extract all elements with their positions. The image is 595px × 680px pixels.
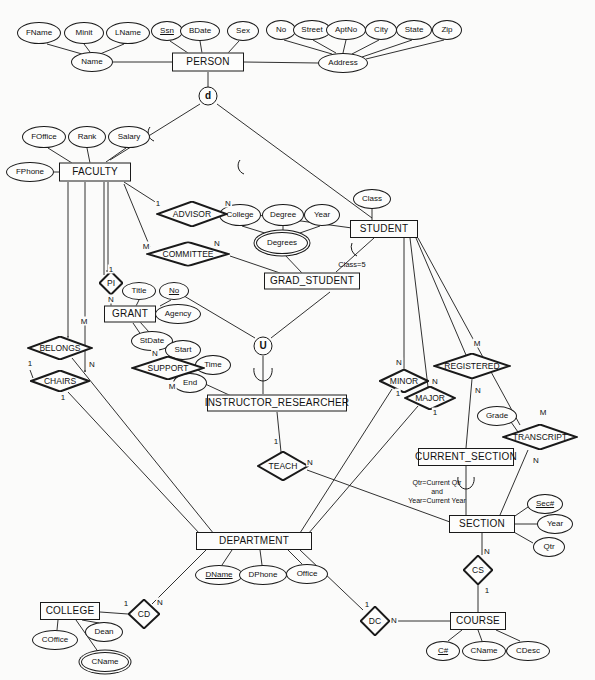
attribute-address[interactable]: Address xyxy=(318,53,368,73)
attribute-dname[interactable]: DName xyxy=(195,565,243,585)
attribute-qtr[interactable]: Qtr xyxy=(533,537,565,557)
cardinality-label: 1 xyxy=(395,389,401,398)
relationship-support[interactable]: SUPPORT xyxy=(131,356,205,380)
attribute-label: Class xyxy=(362,195,382,203)
entity-label: PERSON xyxy=(186,57,229,68)
attribute-salary[interactable]: Salary xyxy=(108,126,150,148)
entity-course[interactable]: COURSE xyxy=(450,612,506,630)
attribute-dphone[interactable]: DPhone xyxy=(239,565,287,585)
attribute-label: Qtr xyxy=(543,543,554,551)
attribute-label: CName xyxy=(470,647,497,655)
attribute-rank[interactable]: Rank xyxy=(68,126,106,148)
entity-instructor-researcher[interactable]: INSTRUCTOR_RESEARCHER xyxy=(207,395,347,412)
attribute-name[interactable]: Name xyxy=(71,52,113,72)
current-section-condition-note: Qtr=Current Qtr and Year=Current Year xyxy=(408,479,466,505)
attribute-label: Year xyxy=(547,520,563,528)
relationship-teach[interactable]: TEACH xyxy=(257,451,309,481)
entity-label: DEPARTMENT xyxy=(219,536,289,547)
attribute-state[interactable]: State xyxy=(396,20,432,40)
attribute-year-degree[interactable]: Year xyxy=(304,204,340,226)
relationship-label: REGISTERED xyxy=(444,362,499,371)
entity-grant[interactable]: GRANT xyxy=(104,306,156,323)
attribute-no[interactable]: No xyxy=(266,20,296,40)
entity-label: INSTRUCTOR_RESEARCHER xyxy=(205,398,350,409)
cardinality-label: M xyxy=(539,408,548,417)
relationship-dc[interactable]: DC xyxy=(360,606,390,636)
attribute-label: Grade xyxy=(486,412,508,420)
attribute-title[interactable]: Title xyxy=(122,282,156,300)
relationship-label: CHAIRS xyxy=(44,377,76,386)
cardinality-label: 1 xyxy=(432,408,438,417)
relationship-label: ADVISOR xyxy=(173,210,211,219)
attribute-dean[interactable]: Dean xyxy=(85,622,123,642)
attribute-bdate[interactable]: BDate xyxy=(180,21,220,41)
entity-department[interactable]: DEPARTMENT xyxy=(196,532,312,550)
cardinality-label: 1 xyxy=(60,393,66,402)
attribute-fname[interactable]: FName xyxy=(17,22,61,44)
attribute-label: CName xyxy=(91,658,118,666)
entity-college[interactable]: COLLEGE xyxy=(40,602,100,620)
disjoint-specialization-circle[interactable]: d xyxy=(199,87,218,106)
attribute-degree[interactable]: Degree xyxy=(262,204,304,226)
attribute-label: Name xyxy=(81,58,102,66)
attribute-year-section[interactable]: Year xyxy=(537,514,573,534)
attribute-college-cname[interactable]: CName xyxy=(81,652,129,672)
entity-current-section[interactable]: CURRENT_SECTION xyxy=(418,448,514,466)
attribute-aptno[interactable]: AptNo xyxy=(326,20,366,40)
attribute-label: Start xyxy=(175,346,192,354)
entity-grad-student[interactable]: GRAD_STUDENT xyxy=(264,273,360,290)
attribute-minit[interactable]: Minit xyxy=(64,22,104,44)
cardinality-label: N xyxy=(431,377,439,386)
entity-faculty[interactable]: FACULTY xyxy=(59,163,131,182)
cardinality-label: M xyxy=(142,242,151,251)
attribute-fphone[interactable]: FPhone xyxy=(6,162,54,182)
entity-person[interactable]: PERSON xyxy=(172,53,244,72)
attribute-degrees[interactable]: Degrees xyxy=(256,232,308,254)
relationship-pi[interactable]: PI xyxy=(99,271,123,295)
attribute-class[interactable]: Class xyxy=(353,189,391,209)
attribute-grant-no[interactable]: No xyxy=(159,282,189,300)
relationship-label: MAJOR xyxy=(415,394,445,403)
cardinality-label: N xyxy=(107,295,115,304)
relationship-label: SUPPORT xyxy=(148,364,189,373)
entity-section[interactable]: SECTION xyxy=(449,515,515,533)
attribute-city[interactable]: City xyxy=(365,20,397,40)
relationship-registered[interactable]: REGISTERED xyxy=(433,353,511,379)
attribute-lname[interactable]: LName xyxy=(106,22,150,44)
attribute-zip[interactable]: Zip xyxy=(432,20,462,40)
relationship-cs[interactable]: CS xyxy=(463,555,493,585)
attribute-grade[interactable]: Grade xyxy=(477,406,517,426)
relationship-major[interactable]: MAJOR xyxy=(404,386,456,410)
entity-student[interactable]: STUDENT xyxy=(350,220,418,238)
relationship-advisor[interactable]: ADVISOR xyxy=(156,201,228,227)
attribute-course-number[interactable]: C# xyxy=(426,641,460,661)
attribute-label: AptNo xyxy=(335,26,357,34)
cardinality-label: N xyxy=(390,616,398,625)
attribute-coffice[interactable]: COffice xyxy=(32,630,78,650)
union-specialization-circle[interactable]: U xyxy=(254,337,273,356)
attribute-ssn[interactable]: Ssn xyxy=(151,21,183,41)
attribute-foffice[interactable]: FOffice xyxy=(22,126,66,148)
attribute-cdesc[interactable]: CDesc xyxy=(506,641,550,661)
attribute-label: Agency xyxy=(165,310,192,318)
attribute-label: DPhone xyxy=(249,571,278,579)
attribute-sec-number[interactable]: Sec# xyxy=(527,494,563,514)
cardinality-label: N xyxy=(156,598,164,607)
entity-label: FACULTY xyxy=(72,167,118,178)
attribute-label: Street xyxy=(301,26,322,34)
attribute-agency[interactable]: Agency xyxy=(155,304,201,324)
attribute-course-cname[interactable]: CName xyxy=(462,641,506,661)
relationship-chairs[interactable]: CHAIRS xyxy=(30,370,90,392)
attribute-office[interactable]: Office xyxy=(286,564,328,584)
cardinality-label: 1 xyxy=(484,586,490,595)
cardinality-label: N xyxy=(151,349,159,358)
cardinality-label: M xyxy=(168,382,177,391)
cardinality-label: M xyxy=(80,317,89,326)
attribute-label: C# xyxy=(438,647,448,655)
relationship-belongs[interactable]: BELONGS xyxy=(27,336,93,360)
attribute-label: Address xyxy=(328,59,357,67)
attribute-label: No xyxy=(276,26,286,34)
attribute-sex[interactable]: Sex xyxy=(227,21,259,41)
relationship-transcript[interactable]: TRANSCRIPT xyxy=(502,424,578,450)
attribute-label: Rank xyxy=(78,133,97,141)
